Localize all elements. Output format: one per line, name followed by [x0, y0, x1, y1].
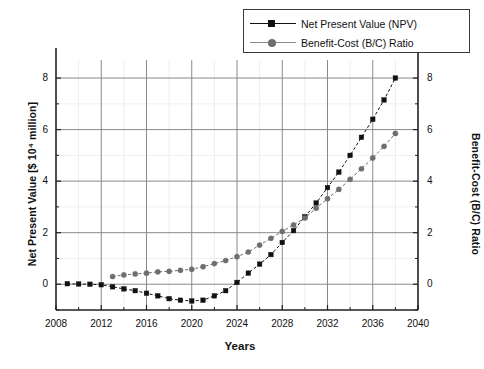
legend-item-bc-ratio: Benefit-Cost (B/C) Ratio [250, 33, 463, 52]
x-tick-2028: 2028 [261, 318, 303, 329]
legend-marker-square-icon [250, 18, 296, 30]
y-tick-left-2: 2 [24, 227, 48, 238]
chart-legend: Net Present Value (NPV) Benefit-Cost (B/… [243, 9, 470, 53]
y-tick-right-8: 8 [427, 72, 451, 83]
y-tick-left-0: 0 [24, 278, 48, 289]
y-tick-left-6: 6 [24, 124, 48, 135]
x-tick-2036: 2036 [352, 318, 394, 329]
y-tick-right-4: 4 [427, 175, 451, 186]
chart-figure: Net Present Value [$ 10⁴ million] Benefi… [0, 0, 484, 369]
x-axis-title: Years [150, 340, 330, 352]
x-tick-2008: 2008 [35, 318, 77, 329]
legend-marker-circle-icon [250, 37, 296, 49]
y-tick-left-4: 4 [24, 175, 48, 186]
x-tick-2016: 2016 [126, 318, 168, 329]
y-tick-right-2: 2 [427, 227, 451, 238]
legend-label-bc-ratio: Benefit-Cost (B/C) Ratio [301, 37, 414, 49]
y-tick-left-8: 8 [24, 72, 48, 83]
x-tick-2032: 2032 [307, 318, 349, 329]
x-tick-2040: 2040 [397, 318, 439, 329]
y-tick-right-0: 0 [427, 278, 451, 289]
legend-label-npv: Net Present Value (NPV) [301, 18, 417, 30]
x-tick-2020: 2020 [171, 318, 213, 329]
plot-area [0, 0, 484, 369]
x-tick-2012: 2012 [80, 318, 122, 329]
y-tick-right-6: 6 [427, 124, 451, 135]
x-tick-2024: 2024 [216, 318, 258, 329]
y-axis-right-title: Benefit-Cost (B/C) Ratio [470, 84, 482, 304]
legend-item-npv: Net Present Value (NPV) [250, 14, 463, 33]
